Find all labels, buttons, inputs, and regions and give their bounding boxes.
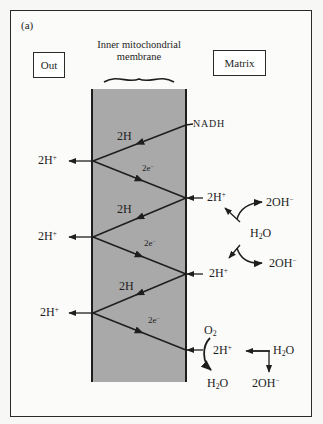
water-to-hydroxide-arrow bbox=[253, 351, 269, 372]
proton-in-label-2: 2H+ bbox=[209, 267, 228, 279]
hydroxide-label: 2OH− bbox=[252, 377, 279, 389]
membrane-brace bbox=[104, 79, 174, 82]
nadh-label: NADH bbox=[193, 119, 225, 129]
segment-label-2h-1: 2H bbox=[117, 130, 132, 142]
out-compartment-box: Out bbox=[33, 52, 65, 78]
segment-label-2e-2: 2e− bbox=[144, 239, 156, 248]
hydroxide-bottom-label: 2OH− bbox=[269, 257, 296, 269]
panel-label: (a) bbox=[21, 20, 33, 31]
matrix-compartment-box: Matrix bbox=[213, 50, 266, 76]
matrix-label: Matrix bbox=[225, 57, 255, 69]
hydroxide-top-label: 2OH− bbox=[266, 196, 293, 208]
source-water-label: H2O bbox=[273, 344, 294, 356]
proton-in-label-3: 2H+ bbox=[213, 344, 232, 356]
proton-in-label-1: 2H+ bbox=[207, 191, 226, 203]
membrane bbox=[92, 89, 186, 382]
product-water-label: H2O bbox=[207, 377, 228, 389]
oxygen-label: O2 bbox=[204, 324, 217, 336]
water-to-hydroxide-bottom-arrow bbox=[237, 248, 262, 263]
membrane-title: Inner mitochondrial membrane bbox=[89, 39, 189, 63]
segment-label-2h-2: 2H bbox=[117, 203, 132, 215]
proton-out-label-3: 2H+ bbox=[40, 306, 59, 318]
segment-label-2e-3: 2e− bbox=[148, 316, 160, 325]
segment-label-2e-1: 2e− bbox=[142, 164, 154, 173]
water-to-hydroxide-top-arrow bbox=[237, 202, 262, 219]
water-label: H2O bbox=[250, 227, 271, 239]
proton-out-label-2: 2H+ bbox=[38, 230, 57, 242]
segment-label-2h-3: 2H bbox=[119, 280, 134, 292]
oxygen-to-water-arrow bbox=[204, 338, 211, 370]
proton-out-label-1: 2H+ bbox=[38, 154, 57, 166]
out-label: Out bbox=[41, 59, 58, 71]
